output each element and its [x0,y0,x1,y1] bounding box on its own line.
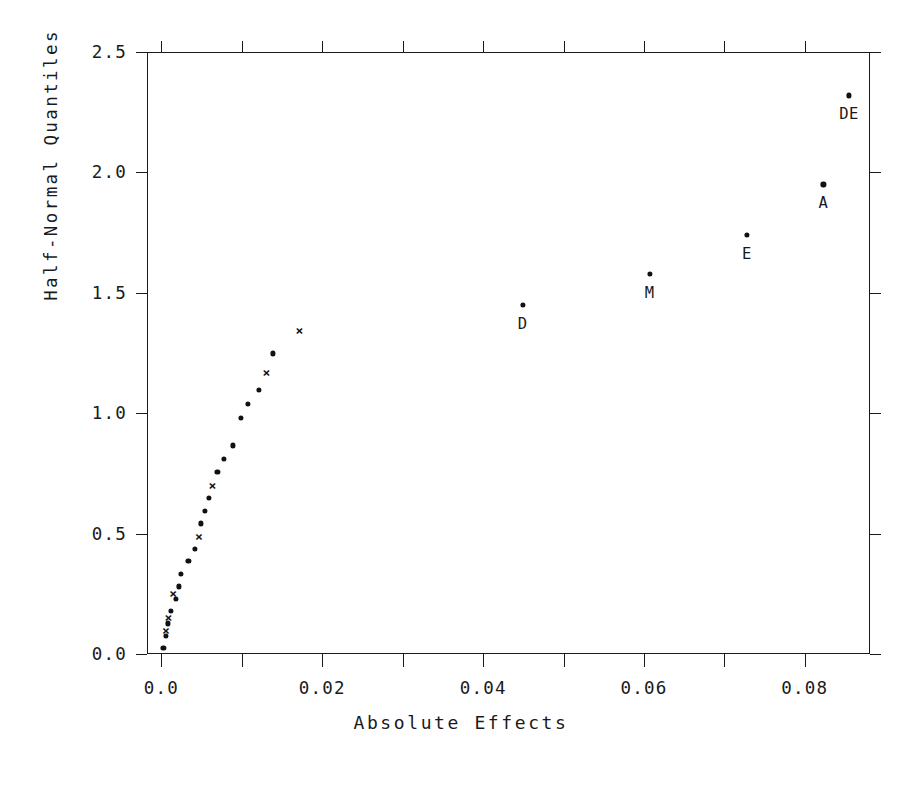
x-tick-label: 0.06 [621,678,668,698]
top-tick [242,41,243,52]
y-tick-label: 1.0 [92,403,127,423]
x-tick-minor [403,654,404,667]
y-tick-label: 2.5 [92,42,127,62]
top-tick [724,41,725,52]
x-tick-label: 0.0 [144,678,179,698]
y-tick-label: 0.5 [92,524,127,544]
y-axis-title-wrap: Half-Normal Quantiles [0,150,195,180]
x-tick-minor [564,654,565,667]
right-tick [870,654,881,655]
x-tick-major [644,654,645,667]
y-tick [136,654,147,655]
x-tick-minor [242,654,243,667]
right-tick [870,293,881,294]
half-normal-plot-figure: ××××××× DMEADE 0.00.51.01.52.02.5 0.00.0… [0,0,922,787]
y-axis-title: Half-Normal Quantiles [41,29,61,301]
x-tick-major [483,654,484,667]
top-tick [805,41,806,52]
x-tick-label: 0.02 [299,678,346,698]
plot-frame [147,52,870,654]
y-tick [136,52,147,53]
right-tick [870,52,881,53]
x-tick-major [322,654,323,667]
x-tick-label: 0.08 [781,678,828,698]
y-tick-label: 0.0 [92,644,127,664]
y-tick [136,534,147,535]
right-tick [870,172,881,173]
x-tick-minor [724,654,725,667]
y-tick [136,413,147,414]
top-tick [564,41,565,52]
x-tick-major [161,654,162,667]
right-tick [870,413,881,414]
top-tick [161,41,162,52]
x-tick-label: 0.04 [460,678,507,698]
top-tick [483,41,484,52]
y-tick-label: 1.5 [92,283,127,303]
top-tick [644,41,645,52]
top-tick [322,41,323,52]
x-tick-major [805,654,806,667]
x-axis-title: Absolute Effects [0,712,922,733]
right-tick [870,534,881,535]
top-tick [403,41,404,52]
y-tick [136,293,147,294]
